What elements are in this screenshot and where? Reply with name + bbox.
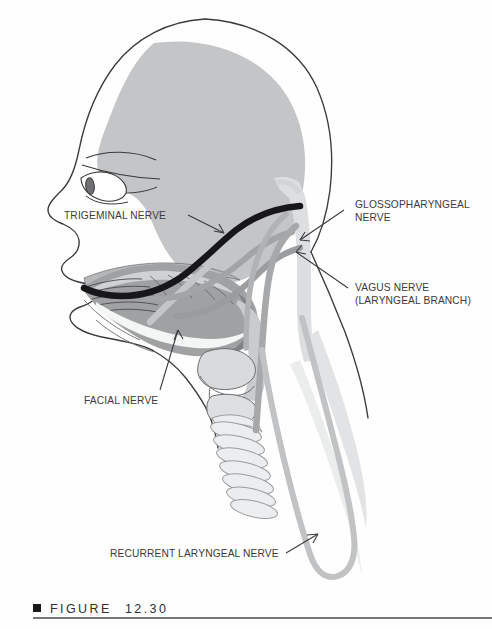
label-trigeminal-nerve: TRIGEMINAL NERVE (64, 210, 166, 221)
square-bullet-icon (33, 604, 41, 612)
caption-figure-number: 12.30 (125, 602, 168, 616)
label-facial-nerve: FACIAL NERVE (84, 395, 158, 406)
label-glossopharyngeal-nerve-line2: NERVE (355, 212, 391, 223)
label-recurrent-laryngeal-nerve: RECURRENT LARYNGEAL NERVE (110, 548, 279, 559)
figure-page: TRIGEMINAL NERVE GLOSSOPHARYNGEAL NERVE … (0, 0, 492, 629)
anatomical-diagram: TRIGEMINAL NERVE GLOSSOPHARYNGEAL NERVE … (0, 0, 492, 629)
label-glossopharyngeal-nerve-line1: GLOSSOPHARYNGEAL (355, 199, 470, 210)
label-vagus-nerve-line1: VAGUS NERVE (355, 282, 429, 293)
label-vagus-nerve-line2: (LARYNGEAL BRANCH) (355, 295, 471, 306)
caption-figure-label: FIGURE (50, 602, 112, 616)
